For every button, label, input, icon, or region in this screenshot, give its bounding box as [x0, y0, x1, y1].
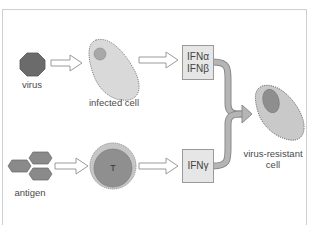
infected-cell-icon [89, 39, 139, 100]
antigen-label: antigen [10, 187, 50, 198]
ifn-alpha-beta-box: IFNα IFNβ [182, 45, 214, 80]
arrow-virus-to-infected [51, 55, 82, 71]
ifn-gamma-box: IFNγ [182, 149, 214, 183]
ifn-gamma-label: IFNγ [187, 160, 208, 172]
ifn-beta-label: IFNβ [187, 63, 209, 75]
t-cell-label: T [108, 163, 118, 174]
ifn-alpha-label: IFNα [187, 51, 209, 63]
resistant-cell-label: virus-resistant cell [238, 148, 308, 170]
arrow-infected-to-ifn-ab [139, 52, 178, 68]
arrow-t-cell-to-ifn-gamma [139, 158, 178, 174]
resistant-cell-label-line2: cell [238, 159, 308, 170]
antigen-icon [8, 152, 52, 180]
virus-resistant-cell-icon [255, 85, 304, 140]
arrow-antigen-to-t-cell [55, 158, 88, 174]
virus-label: virus [12, 79, 52, 90]
resistant-cell-label-line1: virus-resistant [238, 148, 308, 159]
infected-cell-label: infected cell [82, 97, 146, 108]
virus-icon [20, 53, 45, 76]
